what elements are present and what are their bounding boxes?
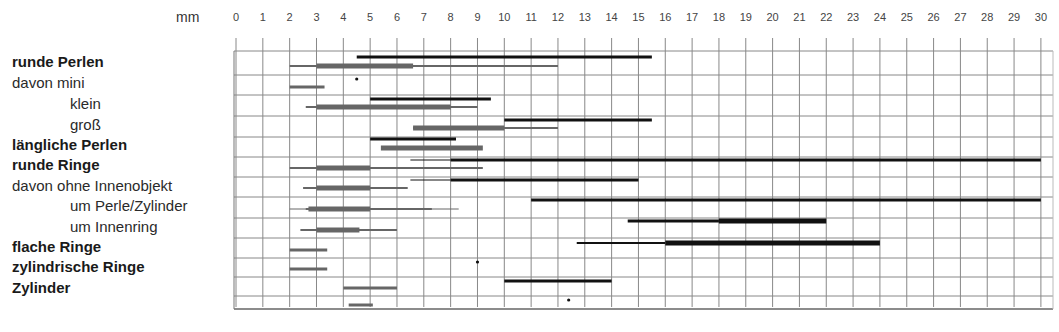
x-tick-label: 28	[981, 11, 993, 23]
x-tick-label: 27	[954, 11, 966, 23]
x-tick-label: 23	[847, 11, 859, 23]
x-tick-label: 24	[874, 11, 886, 23]
data-point	[567, 298, 570, 301]
x-tick-label: 2	[287, 11, 293, 23]
x-tick-label: 18	[713, 11, 725, 23]
x-tick-label: 15	[632, 11, 644, 23]
x-tick-label: 13	[579, 11, 591, 23]
x-tick-label: 22	[820, 11, 832, 23]
x-tick-label: 19	[740, 11, 752, 23]
x-tick-label: 16	[659, 11, 671, 23]
x-tick-label: 12	[552, 11, 564, 23]
x-tick-label: 25	[901, 11, 913, 23]
x-tick-label: 8	[448, 11, 454, 23]
x-tick-label: 0	[233, 11, 239, 23]
x-tick-label: 4	[340, 11, 346, 23]
x-tick-label: 29	[1008, 11, 1020, 23]
x-tick-label: 20	[766, 11, 778, 23]
range-chart: 0123456789101112131415161718192021222324…	[0, 0, 1059, 332]
x-tick-label: 17	[686, 11, 698, 23]
x-tick-label: 1	[260, 11, 266, 23]
x-tick-label: 21	[793, 11, 805, 23]
x-tick-label: 6	[394, 11, 400, 23]
data-point	[476, 260, 479, 263]
x-tick-label: 9	[474, 11, 480, 23]
x-tick-label: 30	[1035, 11, 1047, 23]
data-point	[355, 77, 358, 80]
x-tick-label: 11	[525, 11, 536, 23]
x-tick-label: 5	[367, 11, 373, 23]
x-tick-label: 7	[421, 11, 427, 23]
x-tick-label: 14	[605, 11, 617, 23]
x-tick-label: 10	[498, 11, 510, 23]
x-tick-label: 3	[313, 11, 319, 23]
x-tick-label: 26	[927, 11, 939, 23]
